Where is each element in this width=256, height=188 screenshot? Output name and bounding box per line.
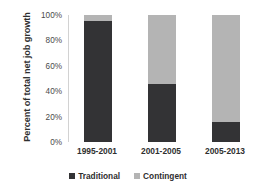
- bar-segment-contingent: [212, 15, 240, 122]
- y-tick-label: 60%: [46, 61, 62, 70]
- y-tick-label: 40%: [46, 87, 62, 96]
- plot-area: [68, 15, 249, 142]
- legend-swatch-icon: [134, 173, 140, 179]
- stacked-bar-chart: Percent of total net job growth 0%20%40%…: [0, 0, 256, 188]
- x-tick-label: 1995-2001: [62, 146, 132, 156]
- bar-segment-contingent: [148, 15, 176, 84]
- chart-legend: TraditionalContingent: [0, 171, 256, 181]
- legend-entry: Contingent: [134, 171, 187, 181]
- y-tick-label: 20%: [46, 112, 62, 121]
- y-tick-label: 100%: [41, 11, 62, 20]
- y-tick-label: 80%: [46, 36, 62, 45]
- legend-swatch-icon: [69, 173, 75, 179]
- x-axis-tick-labels: 1995-20012001-20052005-2013: [68, 146, 248, 160]
- legend-label: Contingent: [143, 171, 187, 181]
- legend-label: Traditional: [78, 171, 120, 181]
- legend-entry: Traditional: [69, 171, 120, 181]
- bar-2005-2013: [212, 15, 240, 142]
- bar-segment-traditional: [148, 84, 176, 142]
- bar-segment-traditional: [212, 122, 240, 142]
- y-tick-label: 0%: [50, 138, 62, 147]
- bar-segment-traditional: [84, 21, 112, 142]
- bar-1995-2001: [84, 15, 112, 142]
- y-axis-tick-labels: 0%20%40%60%80%100%: [26, 0, 64, 188]
- x-tick-label: 2005-2013: [190, 146, 256, 156]
- x-tick-label: 2001-2005: [126, 146, 196, 156]
- bar-2001-2005: [148, 15, 176, 142]
